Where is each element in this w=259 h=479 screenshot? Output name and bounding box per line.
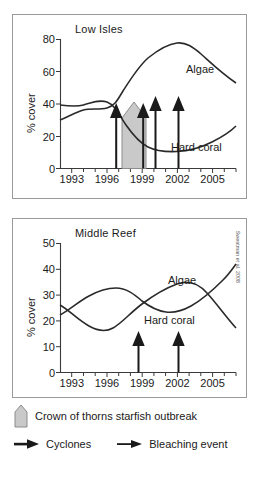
bleaching-arrow-2002 (172, 96, 184, 169)
x-tick-1993: 1993 (60, 377, 84, 389)
bleaching-arrow-2002 (172, 331, 184, 373)
y-tick-40: 40 (43, 263, 55, 275)
x-axis-ticks-middle-reef: 1993 1996 1999 2002 2005 (60, 377, 236, 393)
x-tick-2005: 2005 (200, 173, 224, 185)
cyclone-arrow-1997 (110, 103, 122, 169)
legend-label-bleaching-event: Bleaching event (149, 438, 227, 450)
series-line-algae-low-isles (60, 43, 236, 120)
event-arrows-middle-reef (132, 331, 184, 373)
x-tick-1996: 1996 (95, 173, 119, 185)
y-tick-0: 0 (49, 367, 55, 379)
x-tick-1999: 1999 (130, 173, 154, 185)
y-tick-20: 20 (43, 315, 55, 327)
panel-title-middle-reef: Middle Reef (75, 227, 136, 239)
figure-coral-algae-cover: Low Isles % cover 80 60 40 20 0 1993 199… (0, 0, 259, 479)
y-tick-10: 10 (43, 341, 55, 353)
x-tick-2002: 2002 (165, 377, 189, 389)
plot-area-middle-reef: Algae Hard coral (60, 243, 236, 373)
crown-of-thorns-block-icon (14, 404, 28, 428)
arrow-right-solid-icon (14, 437, 40, 451)
legend-label-cyclones: Cyclones (46, 438, 91, 450)
arrow-right-thin-icon (117, 437, 143, 451)
y-tick-marks-middle-reef (56, 244, 61, 373)
series-label-algae-low-isles: Algae (186, 63, 214, 75)
event-arrows-low-isles (110, 96, 185, 169)
chart-panel-middle-reef: Middle Reef % cover 50 40 30 20 10 0 199… (12, 218, 247, 398)
panel-title-low-isles: Low Isles (75, 23, 123, 35)
y-axis-ticks-low-isles: 80 60 40 20 0 (27, 39, 55, 169)
x-tick-1996: 1996 (95, 377, 119, 389)
x-tick-2005: 2005 (200, 377, 224, 389)
legend-label-crown-of-thorns: Crown of thorns starfish outbreak (35, 410, 197, 422)
y-tick-40: 40 (43, 98, 55, 110)
y-tick-50: 50 (43, 237, 55, 249)
y-axis-ticks-middle-reef: 50 40 30 20 10 0 (27, 243, 55, 373)
cyclone-arrow-1998 (132, 331, 144, 373)
figure-legend: Crown of thorns starfish outbreak Cyclon… (14, 404, 254, 460)
y-tick-80: 80 (43, 33, 55, 45)
x-tick-1993: 1993 (60, 173, 84, 185)
y-tick-0: 0 (49, 163, 55, 175)
y-tick-60: 60 (43, 66, 55, 78)
y-tick-marks-low-isles (56, 40, 61, 169)
x-axis-ticks-low-isles: 1993 1996 1999 2002 2005 (60, 173, 236, 189)
series-label-algae-middle-reef: Algae (168, 274, 196, 286)
x-tick-2002: 2002 (165, 173, 189, 185)
series-label-hard-coral-low-isles: Hard coral (171, 141, 222, 153)
axis-lines-middle-reef (60, 243, 236, 373)
chart-panel-low-isles: Low Isles % cover 80 60 40 20 0 1993 199… (12, 14, 247, 199)
y-tick-30: 30 (43, 289, 55, 301)
legend-row-events: Cyclones Bleaching event (14, 437, 254, 451)
series-line-hard-coral-middle-reef (60, 264, 236, 315)
x-tick-1999: 1999 (130, 377, 154, 389)
y-tick-20: 20 (43, 131, 55, 143)
plot-area-low-isles: Algae Hard coral (60, 39, 236, 169)
series-label-hard-coral-middle-reef: Hard coral (144, 314, 195, 326)
legend-item-crown-of-thorns: Crown of thorns starfish outbreak (14, 404, 254, 428)
bleaching-arrow-2000 (149, 96, 161, 169)
